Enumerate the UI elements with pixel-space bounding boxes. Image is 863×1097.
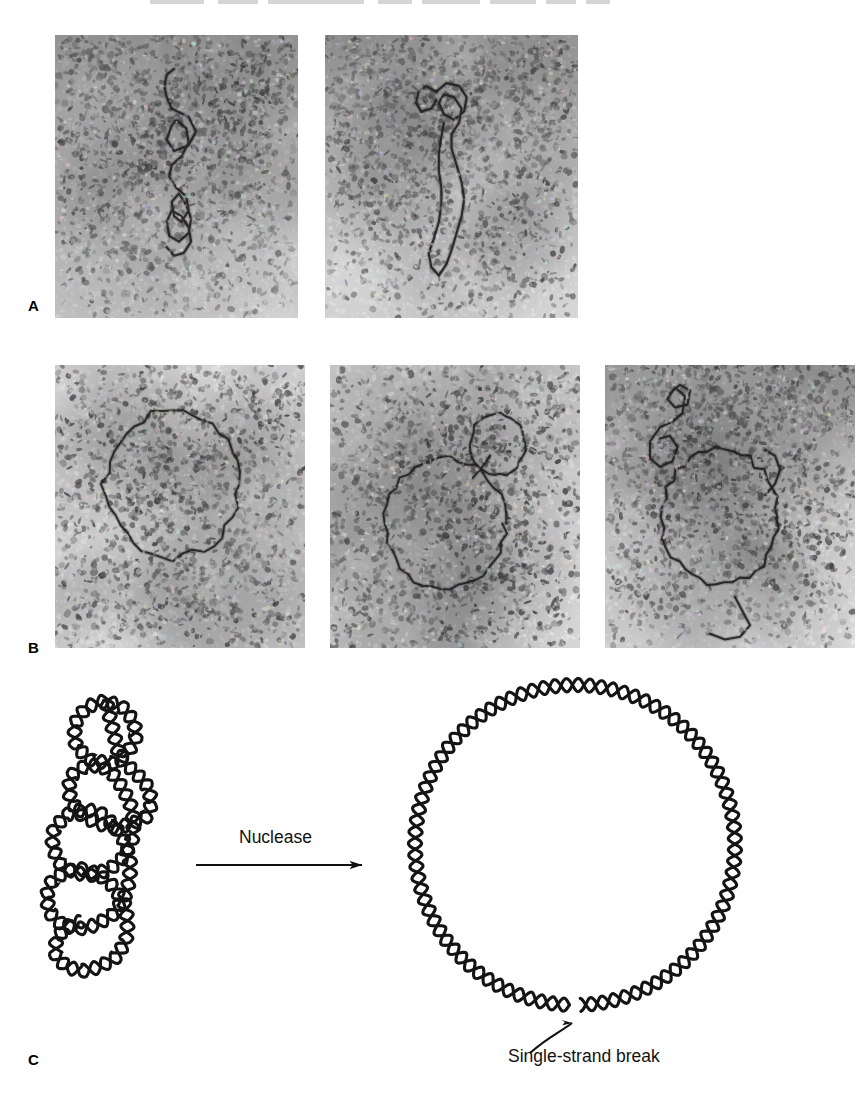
relaxed-circular-dna-schematic bbox=[408, 679, 741, 1012]
cropped-header-remnant bbox=[150, 0, 610, 5]
em-b3 bbox=[605, 365, 855, 648]
em-b2 bbox=[330, 365, 580, 648]
single-strand-break-label: Single-strand break bbox=[508, 1046, 660, 1067]
em-a1 bbox=[55, 35, 298, 318]
panel-label-b: B bbox=[28, 640, 39, 655]
panel-label-a: A bbox=[28, 298, 39, 313]
supercoiled-dna-schematic bbox=[41, 695, 157, 977]
nuclease-label: Nuclease bbox=[239, 827, 312, 848]
em-b1 bbox=[55, 365, 305, 648]
figure-root: A B C Nuclease Single-strand break bbox=[0, 0, 863, 1097]
panel-c-schematic bbox=[0, 655, 863, 1097]
em-a2 bbox=[325, 35, 578, 318]
